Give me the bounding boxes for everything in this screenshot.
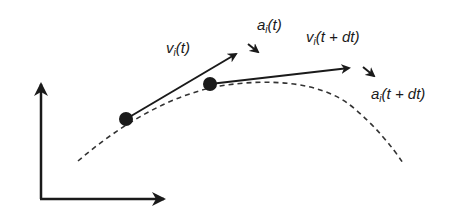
label-argument: (t) <box>268 16 282 33</box>
label-acceleration-t-plus-dt: ai(t + dt) <box>371 86 425 104</box>
acceleration-arrow-t <box>248 44 258 52</box>
diagram-graphics <box>0 0 473 221</box>
velocity-vector-t-plus-dt <box>210 68 349 84</box>
label-argument: (t + dt) <box>382 85 426 102</box>
label-acceleration-t: ai(t) <box>257 17 282 35</box>
particle-point-t-plus-dt <box>203 77 217 91</box>
velocity-vector-t <box>126 54 236 119</box>
label-velocity-t-plus-dt: vi(t + dt) <box>306 29 360 47</box>
label-argument: (t) <box>176 39 190 56</box>
diagram-canvas: vi(t) ai(t) vi(t + dt) ai(t + dt) <box>0 0 473 221</box>
label-velocity-t: vi(t) <box>166 40 190 58</box>
label-argument: (t + dt) <box>316 28 360 45</box>
label-base: v <box>166 39 174 56</box>
label-base: v <box>306 28 314 45</box>
particle-point-t <box>119 112 133 126</box>
acceleration-arrow-t-plus-dt <box>363 67 374 76</box>
